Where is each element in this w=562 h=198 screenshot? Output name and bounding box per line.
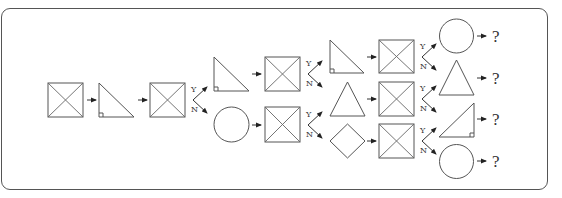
no-label: N — [420, 146, 427, 155]
square-x-shape — [379, 82, 414, 116]
square-x-shape — [265, 107, 300, 142]
right-triangle-mirrored-shape — [439, 103, 474, 137]
right-triangle-shape — [214, 57, 249, 91]
square-x-shape — [379, 124, 414, 158]
circle-shape — [214, 107, 249, 142]
right-triangle-shape — [330, 40, 364, 73]
circle-shape — [440, 19, 474, 53]
no-label: N — [306, 79, 313, 88]
yes-label: Y — [305, 59, 312, 68]
diamond-shape — [330, 124, 365, 158]
yes-label: Y — [419, 126, 426, 135]
unknown-result-4: ? — [492, 152, 500, 171]
flow-diagram: Y N Y N Y N — [0, 0, 562, 198]
square-x-shape — [150, 83, 185, 117]
yes-label: Y — [305, 110, 312, 119]
yes-label: Y — [419, 42, 426, 51]
unknown-result-2: ? — [492, 69, 500, 88]
unknown-result-3: ? — [492, 110, 500, 129]
no-label: N — [420, 62, 427, 71]
no-label: N — [306, 130, 313, 139]
circle-shape — [440, 145, 474, 179]
square-x-shape — [265, 57, 300, 91]
unknown-result-1: ? — [492, 27, 500, 46]
start-square-x — [48, 83, 83, 117]
no-label: N — [420, 104, 427, 113]
yes-no-fork: Y N — [419, 84, 436, 113]
yes-no-fork: Y N — [190, 85, 207, 114]
yes-no-fork: Y N — [305, 59, 322, 88]
yes-no-fork: Y N — [419, 126, 436, 155]
square-x-shape — [379, 40, 414, 73]
isosceles-triangle-shape — [439, 60, 474, 95]
no-label: N — [191, 105, 198, 114]
yes-label: Y — [190, 85, 197, 94]
yes-no-fork: Y N — [305, 110, 322, 139]
isosceles-triangle-shape — [330, 82, 365, 116]
yes-no-fork: Y N — [419, 42, 436, 71]
yes-label: Y — [419, 84, 426, 93]
right-triangle-shape — [99, 83, 134, 117]
